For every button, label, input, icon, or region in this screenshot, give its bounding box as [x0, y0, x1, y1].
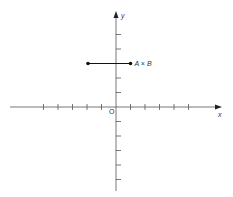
segment-start-point — [86, 62, 90, 66]
x-axis-arrow-icon — [215, 105, 222, 110]
y-axis: y — [114, 11, 126, 191]
coordinate-plane: x y O A × B — [0, 0, 233, 197]
segment-label: A × B — [134, 60, 152, 67]
segment-end-point — [129, 62, 133, 66]
y-axis-label: y — [120, 12, 125, 20]
x-axis-label: x — [217, 111, 222, 118]
segment-a-x-b: A × B — [86, 60, 152, 67]
y-axis-arrow-icon — [114, 11, 119, 18]
origin-label: O — [109, 108, 115, 115]
